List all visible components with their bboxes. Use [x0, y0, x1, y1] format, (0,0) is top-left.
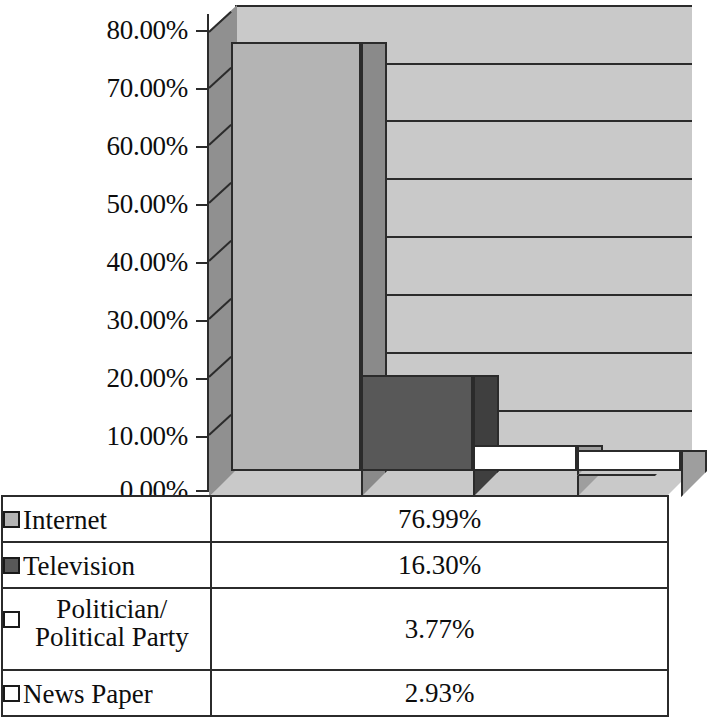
table-row: Television 16.30%: [2, 542, 668, 588]
y-tick-mark-60: [196, 146, 208, 148]
y-axis-labels: 80.00% 70.00% 60.00% 50.00% 40.00% 30.00…: [0, 0, 196, 497]
value-newspaper: 2.93%: [211, 670, 668, 716]
bar-newspaper[interactable]: [577, 5, 681, 497]
bar-newspaper-face: [577, 450, 681, 471]
legend-cell-internet: Internet: [2, 496, 211, 542]
table-row: Internet 76.99%: [2, 496, 668, 542]
y-tick-label-70: 70.00%: [107, 75, 188, 102]
bar-politician-face: [473, 445, 577, 471]
y-tick-mark-30: [196, 320, 208, 322]
bar-politician[interactable]: [473, 5, 577, 497]
y-tick-mark-10: [196, 436, 208, 438]
bar-chart: 80.00% 70.00% 60.00% 50.00% 40.00% 30.00…: [0, 0, 692, 497]
y-tick-label-40: 40.00%: [107, 249, 188, 276]
bar-newspaper-side: [681, 450, 707, 497]
y-tick-label-20: 20.00%: [107, 365, 188, 392]
light-gray-swatch: [3, 511, 20, 528]
y-tick-mark-20: [196, 378, 208, 380]
legend-label-newspaper: News Paper: [23, 680, 153, 708]
legend-cell-television: Television: [2, 542, 211, 588]
table-row: News Paper 2.93%: [2, 670, 668, 716]
plot-area: [209, 5, 692, 492]
y-tick-label-80: 80.00%: [107, 17, 188, 44]
y-tick-label-60: 60.00%: [107, 133, 188, 160]
y-tick-mark-70: [196, 88, 208, 90]
y-tick-mark-50: [196, 204, 208, 206]
y-axis-line: [207, 14, 209, 492]
white-swatch: [3, 685, 20, 702]
y-tick-mark-80: [196, 30, 208, 32]
bar-internet[interactable]: [231, 5, 361, 497]
y-tick-label-10: 10.00%: [107, 423, 188, 450]
table-row: Politician/ Political Party 3.77%: [2, 588, 668, 670]
y-tick-label-50: 50.00%: [107, 191, 188, 218]
y-tick-mark-40: [196, 262, 208, 264]
value-politician: 3.77%: [211, 588, 668, 670]
white-swatch: [3, 611, 20, 628]
bar-internet-face: [231, 42, 361, 471]
value-television: 16.30%: [211, 542, 668, 588]
y-tick-mark-0: [196, 490, 208, 492]
legend-cell-newspaper: News Paper: [2, 670, 211, 716]
legend-label-politician: Politician/ Political Party: [35, 595, 189, 652]
legend-label-internet: Internet: [23, 506, 107, 534]
y-tick-label-30: 30.00%: [107, 307, 188, 334]
value-internet: 76.99%: [211, 496, 668, 542]
bar-television[interactable]: [361, 5, 473, 497]
legend-cell-politician: Politician/ Political Party: [2, 588, 211, 670]
bar-television-face: [361, 375, 473, 471]
dark-gray-swatch: [3, 557, 20, 574]
legend-data-table: Internet 76.99% Television 16.30% Politi…: [1, 495, 669, 717]
legend-label-television: Television: [23, 552, 135, 580]
